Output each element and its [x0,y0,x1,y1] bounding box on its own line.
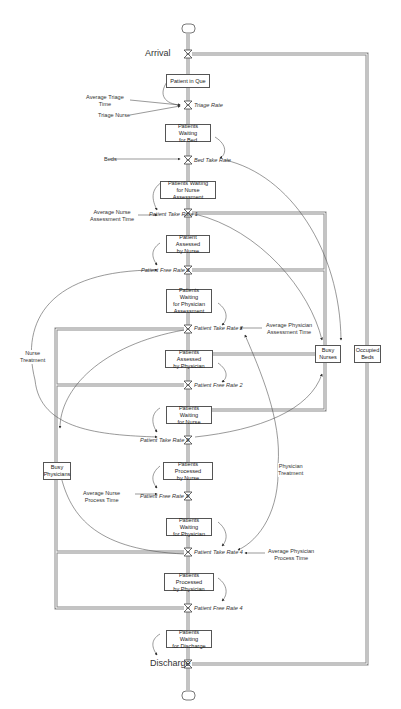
aux-beds[interactable]: Beds [104,156,117,163]
source-label-arrival: Arrival [145,48,171,58]
stock-patients-waiting-for-nurse-assessment[interactable]: Patients Waiting for Nurse Assessment [160,181,216,199]
stock-occupied-beds[interactable]: Occupied Beds [354,345,381,363]
stock-patient-in-que[interactable]: Patient in Que [166,74,210,88]
rate-patient-take-2[interactable]: Patient Take Rate 2 [194,325,243,332]
stock-patients-waiting-for-physician[interactable]: Patients Waiting for Physician [166,518,212,536]
rate-bed-take[interactable]: Bed Take Rate [194,157,231,164]
aux-average-nurse-process-time[interactable]: Average Nurse Process Time [83,490,120,504]
rate-patient-take-4[interactable]: Patient Take Rate 4 [194,549,243,556]
rate-patient-free-1[interactable]: Patient Free Rate 1 [141,267,190,274]
stock-patient-assessed-by-nurse[interactable]: Patient Assessed by Nurse [166,235,210,253]
rate-patient-free-4[interactable]: Patient Free Rate 4 [194,605,243,612]
sink-label-discharge: Discharge [150,658,191,668]
stock-patients-waiting-for-bed[interactable]: Patients Waiting for Bed [165,124,211,142]
rate-patient-free-3[interactable]: Patient Free Rate 3 [140,493,189,500]
aux-physician-treatment[interactable]: Physician Treatment [278,463,303,477]
stock-patients-processed-by-physician[interactable]: Patients Processed by Physician [164,573,214,591]
stock-patients-waiting-for-nurse[interactable]: Patients Waiting for Nurse [166,406,212,424]
rate-patient-free-2[interactable]: Patient Free Rate 2 [194,382,243,389]
aux-average-nurse-assessment-time[interactable]: Average Nurse Assessment Time [90,209,134,223]
stock-patients-waiting-for-discharge[interactable]: Patients Waiting for Discharge [166,630,212,648]
rate-patient-take-1[interactable]: Patient Take Rate 1 [149,211,198,218]
aux-average-physician-assessment-time[interactable]: Average Physician Assessment Time [266,322,312,336]
stock-patients-processed-by-nurse[interactable]: Patients Processed by Nurse [163,462,213,480]
stock-patients-waiting-for-physician-assessment[interactable]: Patients Waiting for Physician Assessmen… [166,289,212,313]
aux-average-physician-process-time[interactable]: Average Physician Process Time [268,548,314,562]
rate-triage[interactable]: Triage Rate [194,102,223,109]
stock-busy-nurses[interactable]: Busy Nurses [315,345,341,363]
stock-busy-physicians[interactable]: Busy Physicians [43,462,71,480]
aux-triage-nurse[interactable]: Triage Nurse [98,112,130,119]
stock-patients-assessed-by-physician[interactable]: Patients Assessed by Physician [165,350,213,368]
aux-average-triage-time[interactable]: Average Triage Time [86,94,124,108]
aux-nurse-treatment[interactable]: Nurse Treatment [20,350,45,364]
rate-patient-take-3[interactable]: Patient Take Rate 3 [140,437,189,444]
